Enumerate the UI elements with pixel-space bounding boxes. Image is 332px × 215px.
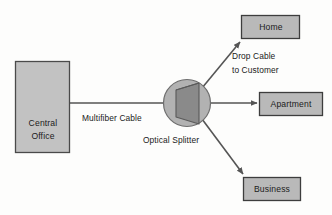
node-optical-splitter[interactable]: [164, 80, 211, 127]
node-central-office[interactable]: Central Office: [16, 62, 70, 153]
multifiber-cable-label: Multifiber Cable: [82, 113, 142, 123]
business-label: Business: [254, 184, 290, 194]
central-office-label-line2: Office: [31, 131, 54, 141]
node-apartment[interactable]: Apartment: [260, 93, 323, 116]
edge-drop-cable-business: [202, 119, 243, 174]
drop-cable-label-line2: to Customer: [232, 65, 279, 75]
optical-splitter-diagram: Central Office Home Apartment Business M…: [0, 0, 332, 215]
central-office-label-line1: Central: [29, 118, 58, 128]
diagram-canvas: Central Office Home Apartment Business M…: [0, 0, 332, 215]
home-label: Home: [259, 22, 283, 32]
apartment-label: Apartment: [271, 99, 312, 109]
node-home[interactable]: Home: [242, 16, 300, 39]
drop-cable-business-arrow: [202, 119, 243, 174]
node-business[interactable]: Business: [244, 178, 301, 201]
drop-cable-label-line1: Drop Cable: [232, 51, 276, 61]
optical-splitter-label: Optical Splitter: [143, 135, 199, 145]
